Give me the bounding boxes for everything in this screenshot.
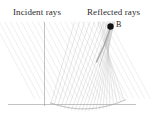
focal-point-marker [107, 23, 113, 29]
incident-rays-group [0, 22, 150, 98]
incident-ray [60, 22, 101, 98]
incident-ray [5, 22, 46, 98]
incident-ray [16, 22, 57, 98]
reflected-rays-label: Reflected rays [87, 7, 140, 17]
reflected-ray [65, 22, 95, 108]
reflected-ray [51, 22, 75, 103]
incident-ray [22, 22, 63, 98]
focal-point-label: B [116, 20, 121, 29]
incident-ray [110, 22, 151, 98]
incident-ray [0, 22, 40, 98]
incident-ray [82, 22, 123, 98]
incident-ray [0, 22, 35, 98]
incident-ray [93, 22, 134, 98]
incident-ray [55, 22, 96, 98]
reflected-ray [75, 22, 107, 110]
incident-ray [33, 22, 74, 98]
incident-rays-label: Incident rays [13, 7, 61, 17]
reflected-rays-group [51, 22, 124, 111]
incident-ray [71, 22, 112, 98]
optics-diagram: Incident rays Reflected rays B [0, 0, 152, 115]
optics-svg [0, 0, 152, 115]
incident-ray [11, 22, 52, 98]
incident-ray [27, 22, 68, 98]
